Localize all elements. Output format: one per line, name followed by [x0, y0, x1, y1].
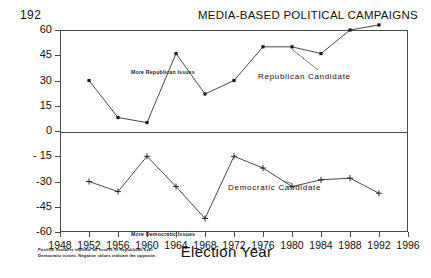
footnote: Positive numbers indicate an excess of R…: [38, 247, 170, 259]
data-point-marker: [174, 52, 177, 55]
leader-line-republican: [292, 49, 318, 70]
x-tick-mark: [263, 232, 264, 237]
data-point-marker: [348, 28, 351, 31]
data-point-marker: [87, 79, 90, 82]
data-point-marker: [290, 45, 293, 48]
x-tick-mark: [292, 232, 293, 237]
x-tick-mark: [379, 232, 380, 237]
data-point-marker: [86, 178, 92, 184]
x-axis-title-text: Election Year: [159, 243, 272, 260]
data-point-marker: [347, 175, 353, 181]
data-point-marker: [261, 45, 264, 48]
x-tick-mark: [118, 232, 119, 237]
x-tick-mark: [205, 232, 206, 237]
series-label-democratic: Democratic Candidate: [228, 183, 321, 192]
data-point-marker: [319, 52, 322, 55]
x-tick-mark: [321, 232, 322, 237]
x-tick-mark: [408, 232, 409, 237]
series-label-republican: Republican Candidate: [258, 72, 351, 81]
x-tick-mark: [176, 232, 177, 237]
chart-page: 192 MEDIA-BASED POLITICAL CAMPAIGNS 6045…: [0, 0, 431, 278]
data-point-marker: [145, 121, 148, 124]
x-tick-mark: [234, 232, 235, 237]
data-point-marker: [260, 165, 266, 171]
data-point-marker: [377, 23, 380, 26]
x-tick-mark: [350, 232, 351, 237]
data-point-marker: [376, 190, 382, 196]
data-point-marker: [231, 153, 237, 159]
x-tick-mark: [89, 232, 90, 237]
data-point-marker: [203, 92, 206, 95]
x-tick-mark: [147, 232, 148, 237]
x-tick-mark: [60, 232, 61, 237]
data-point-marker: [116, 116, 119, 119]
data-point-marker: [318, 177, 324, 183]
data-point-marker: [232, 79, 235, 82]
